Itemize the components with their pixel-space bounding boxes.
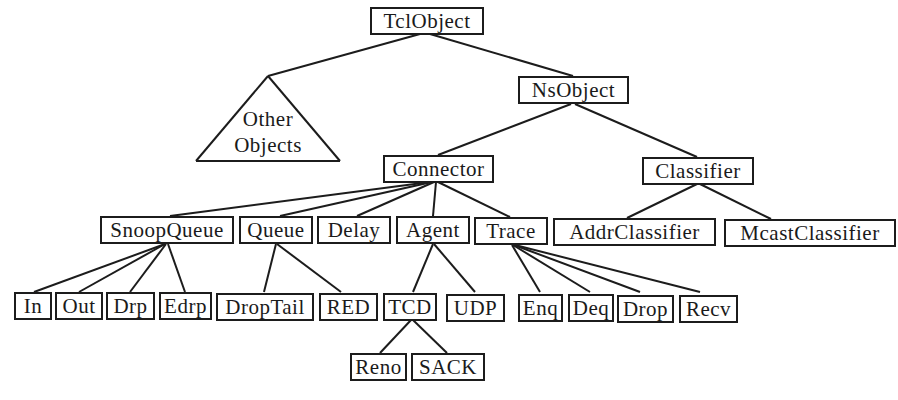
node-label: Deq [573,298,610,319]
node-queue: Queue [239,216,313,244]
node-label: Classifier [655,161,740,182]
node-label: In [24,296,43,317]
node-recv: Recv [679,295,738,323]
node-label: Reno [355,357,401,378]
node-tclobject: TclObject [370,7,484,35]
node-label: Recv [686,299,731,320]
node-label: Drop [623,299,668,320]
edge-tcd-reno [380,320,411,353]
edge-nsobject-connector [438,104,571,155]
node-label: Drp [113,296,147,317]
node-label: SACK [419,357,477,378]
node-label: Agent [406,220,460,241]
node-label: Edrp [164,296,207,317]
node-snoopqueue: SnoopQueue [100,216,234,244]
node-reno: Reno [350,353,407,381]
node-edrp: Edrp [159,292,212,320]
node-connector: Connector [383,155,494,183]
edge-snoopqueue-edrp [168,244,185,292]
edge-agent-tcd [413,244,433,292]
node-enq: Enq [518,294,563,322]
node-sack: SACK [411,353,485,381]
node-label: TclObject [384,11,471,32]
edge-connector-trace [438,182,510,217]
node-droptail: DropTail [216,293,314,321]
tree-edges [0,0,898,400]
node-label: Delay [328,220,381,241]
node-mcastclassifier: McastClassifier [724,219,896,247]
node-agent: Agent [396,216,470,244]
node-label: Connector [393,159,485,180]
node-label: Enq [523,298,558,319]
node-delay: Delay [317,216,391,244]
edge-snoopqueue-in [34,244,165,292]
node-drop: Drop [617,295,674,323]
node-udp: UDP [446,294,505,322]
node-drp: Drp [106,292,155,320]
node-in: In [14,292,52,320]
edge-connector-agent [433,182,436,216]
node-label: TCD [388,297,432,318]
node-label: UDP [454,298,498,319]
edge-queue-droptail [264,244,276,292]
node-label: RED [327,297,371,318]
edge-nsobject-classifier [575,104,697,157]
node-red: RED [319,293,378,321]
other-objects-line1: Other [218,106,318,132]
edge-snoopqueue-out [79,244,165,292]
node-label: McastClassifier [740,223,879,244]
node-label: DropTail [225,297,305,318]
node-tcd: TCD [383,293,437,321]
edge-trace-recv [515,245,700,292]
node-label: Trace [486,221,536,242]
edge-tcd-sack [413,320,447,353]
node-label: AddrClassifier [569,222,700,243]
node-trace: Trace [474,217,548,245]
node-addrclassifier: AddrClassifier [553,218,716,246]
edge-classifier-addrclassifier [627,184,697,218]
edge-tclobject-otherobjects [268,34,420,76]
node-label: Out [63,296,96,317]
edge-tclobject-nsobject [430,34,573,76]
node-nsobject: NsObject [518,76,629,104]
edge-agent-udp [434,244,475,292]
other-objects-label: Other Objects [218,106,318,158]
node-label: Queue [247,220,304,241]
node-classifier: Classifier [642,157,754,185]
class-hierarchy-diagram: TclObject Other Objects NsObject Connect… [0,0,898,400]
node-label: SnoopQueue [110,220,224,241]
node-label: NsObject [532,80,615,101]
node-out: Out [55,292,103,320]
node-deq: Deq [568,294,614,322]
other-objects-line2: Objects [218,132,318,158]
edge-queue-red [277,244,341,292]
edge-classifier-mcastclassifier [700,184,771,219]
